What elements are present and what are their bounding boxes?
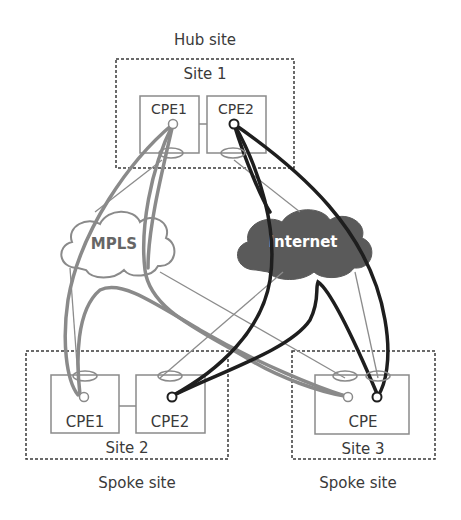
site-1-cpe1-endpoint bbox=[169, 120, 178, 129]
site-2-cpe2-label: CPE2 bbox=[151, 413, 190, 431]
sd-wan-topology-diagram: Hub site Site 1 CPE1 CPE2 CPE1 CPE2 Site… bbox=[0, 0, 461, 520]
site-2-role-label: Spoke site bbox=[98, 474, 175, 492]
site-1-cpe2-label: CPE2 bbox=[218, 101, 254, 117]
site-2-cpe2-endpoint bbox=[168, 393, 177, 402]
mpls-cloud: MPLS bbox=[61, 212, 174, 278]
mpls-label: MPLS bbox=[91, 235, 137, 253]
site-3-role-label: Spoke site bbox=[319, 474, 396, 492]
site-1-cpe2-endpoint bbox=[230, 120, 239, 129]
site-1-cpe1-label: CPE1 bbox=[151, 101, 187, 117]
site-2-cpe1-endpoint bbox=[80, 393, 89, 402]
site-3-label: Site 3 bbox=[341, 440, 384, 458]
site-3-cpe-label: CPE bbox=[349, 413, 378, 431]
site-2-label: Site 2 bbox=[105, 439, 148, 457]
site-3: CPE Site 3 bbox=[292, 351, 435, 459]
site-2-cpe1-label: CPE1 bbox=[66, 413, 105, 431]
site-3-cpe-internet-endpoint bbox=[373, 393, 382, 402]
site-2: CPE1 CPE2 Site 2 bbox=[26, 351, 228, 459]
internet-label: Internet bbox=[268, 233, 337, 251]
site-1-label: Site 1 bbox=[183, 65, 226, 83]
hub-site-label: Hub site bbox=[174, 31, 236, 49]
site-3-cpe-mpls-endpoint bbox=[344, 393, 353, 402]
internet-cloud: Internet bbox=[238, 210, 372, 280]
